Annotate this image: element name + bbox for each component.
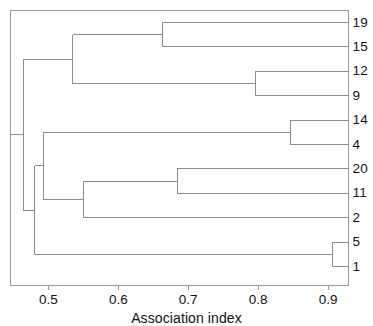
- leaf-label-12: 12: [353, 64, 368, 78]
- axis-tick-label: 0.7: [179, 293, 198, 307]
- leaf-label-15: 15: [353, 40, 368, 54]
- leaf-label-14: 14: [353, 113, 368, 127]
- leaf-label-1: 1: [353, 260, 361, 274]
- axis-tick-label: 0.9: [319, 293, 338, 307]
- leaf-label-11: 11: [353, 186, 367, 200]
- plot-frame: [11, 11, 349, 286]
- x-axis-title: Association index: [0, 311, 373, 325]
- leaf-label-2: 2: [353, 211, 361, 225]
- leaf-label-20: 20: [353, 162, 368, 176]
- axis-tick-label: 0.5: [39, 293, 58, 307]
- leaf-label-5: 5: [353, 235, 361, 249]
- leaf-label-4: 4: [353, 138, 361, 152]
- axis-tick-label: 0.6: [109, 293, 128, 307]
- leaf-label-9: 9: [353, 89, 361, 103]
- axis-tick-label: 0.8: [249, 293, 268, 307]
- leaf-label-19: 19: [353, 16, 368, 30]
